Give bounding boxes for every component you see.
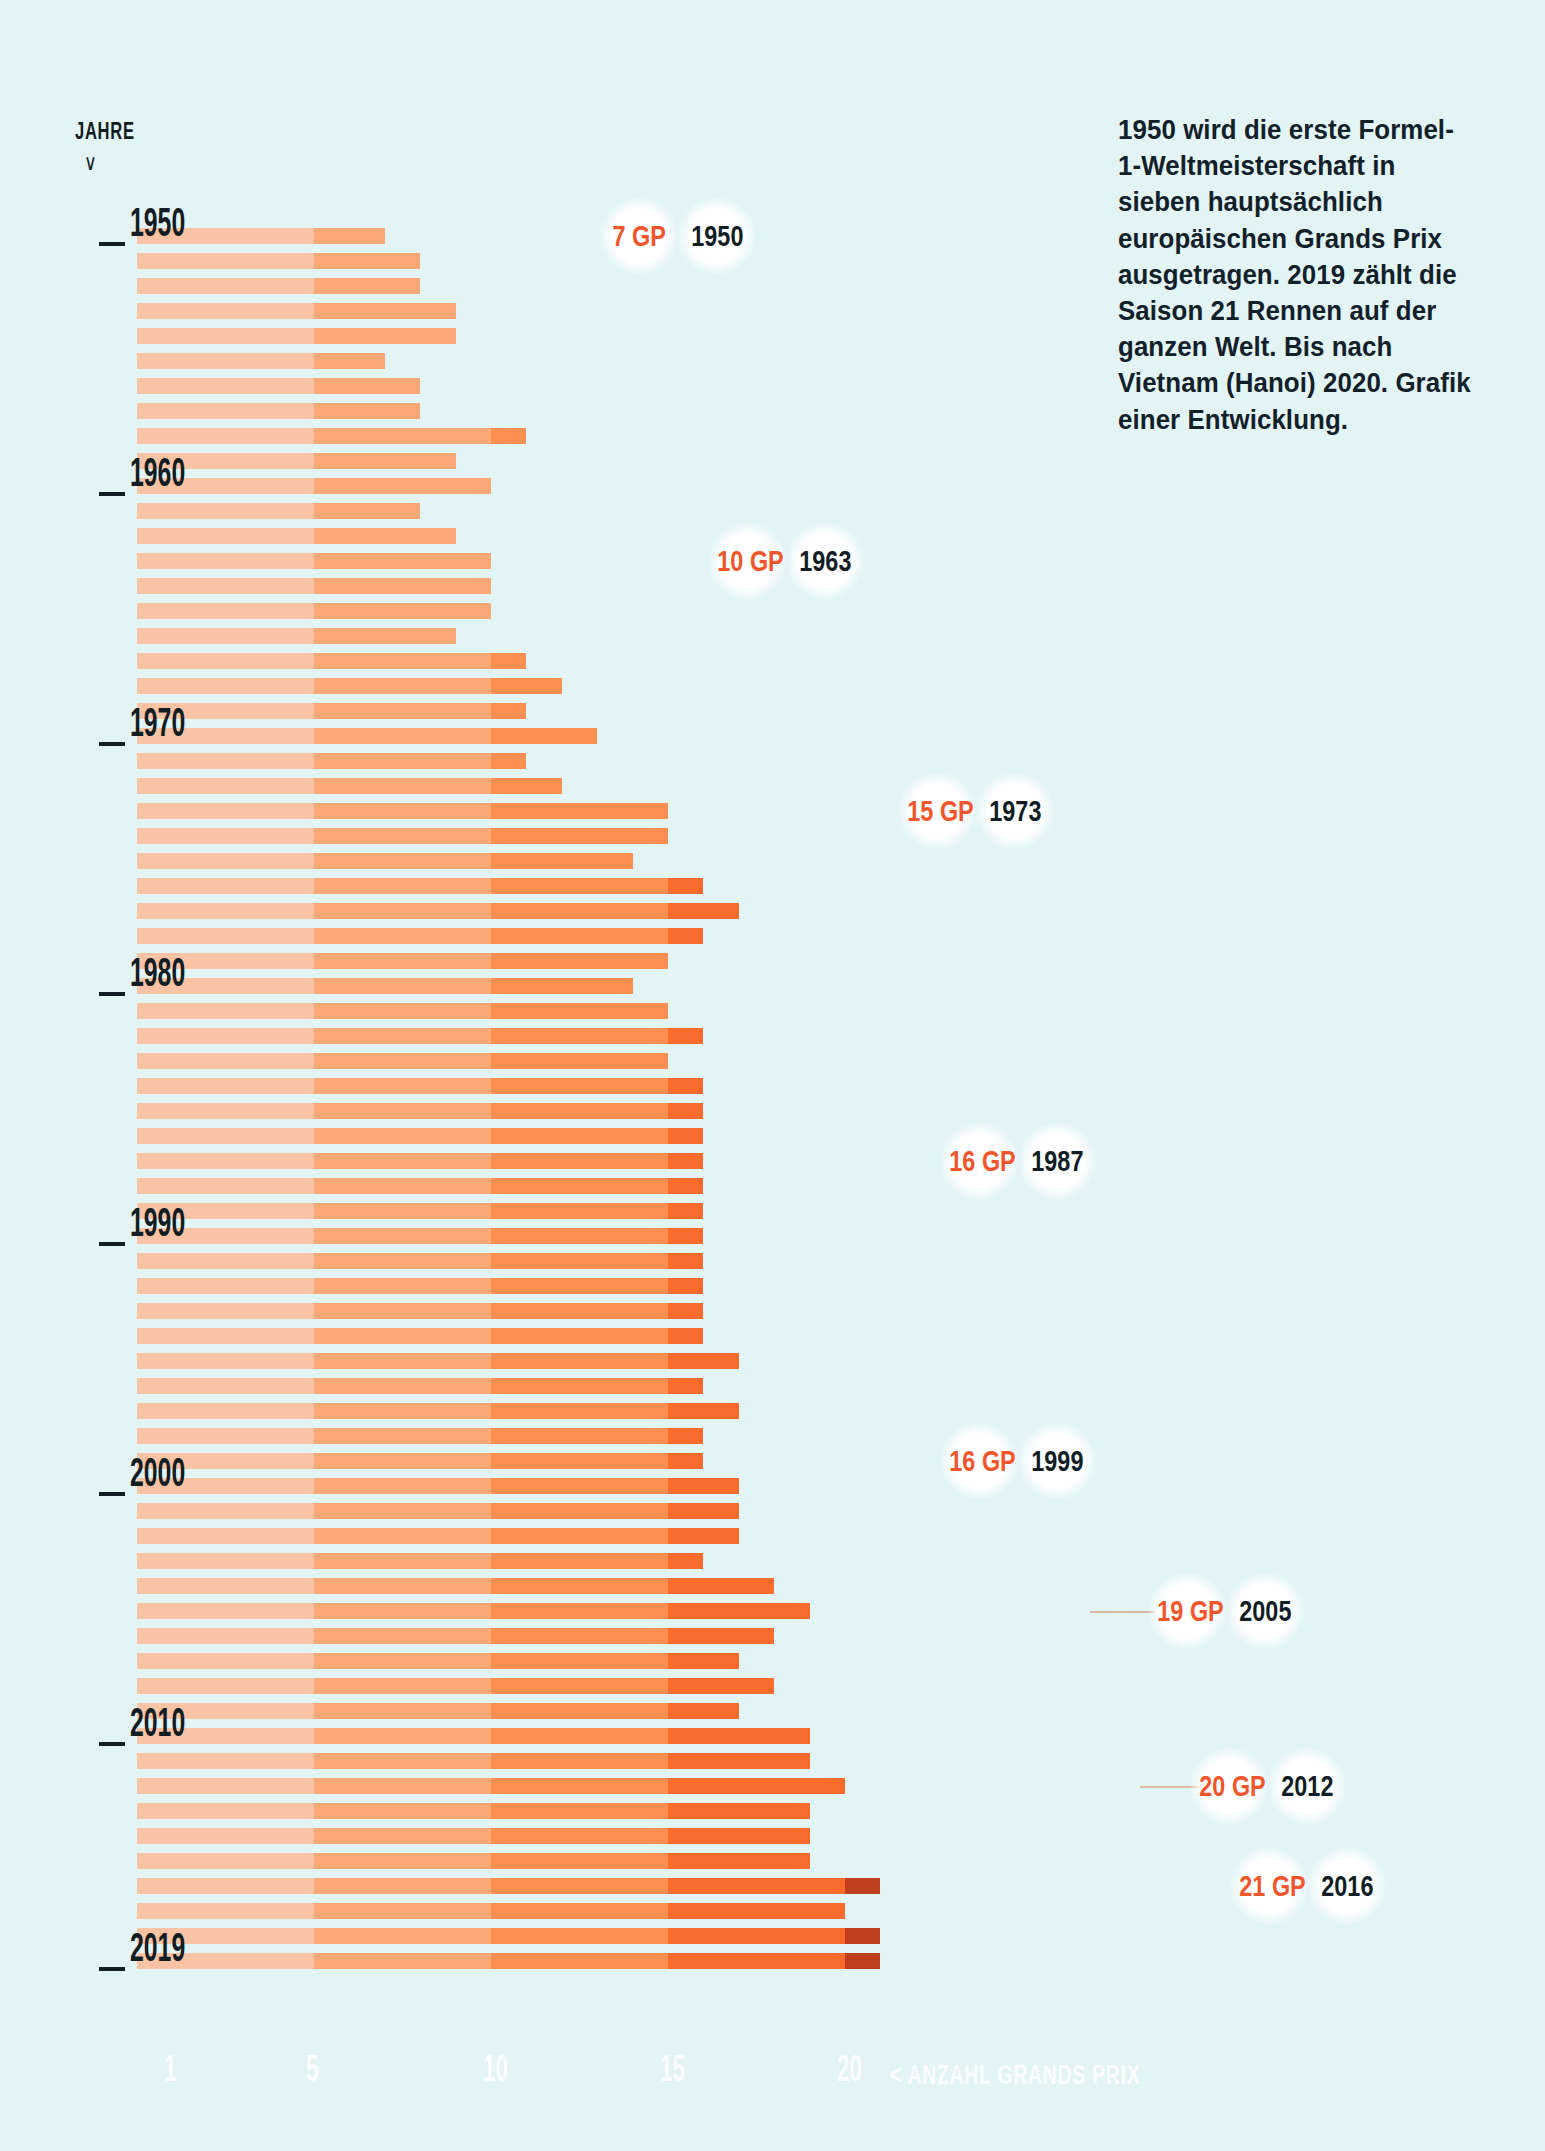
bar-segment xyxy=(668,1178,703,1194)
bar-1997 xyxy=(137,1403,739,1419)
bar-segment xyxy=(668,1678,774,1694)
bar-segment xyxy=(137,928,314,944)
bar-segment xyxy=(314,378,420,394)
bar-segment xyxy=(314,1303,491,1319)
bar-segment xyxy=(314,553,491,569)
bar-1971 xyxy=(137,753,526,769)
bar-segment xyxy=(314,1078,491,1094)
bar-1996 xyxy=(137,1378,703,1394)
bar-segment xyxy=(314,1128,491,1144)
bar-segment xyxy=(137,1078,314,1094)
bar-segment xyxy=(137,1428,314,1444)
bar-segment xyxy=(668,878,703,894)
bar-segment xyxy=(668,1603,810,1619)
bar-segment xyxy=(491,678,562,694)
bar-segment xyxy=(314,928,491,944)
bar-segment xyxy=(314,1278,491,1294)
bar-2015 xyxy=(137,1853,810,1869)
y-axis-tick xyxy=(99,242,125,246)
bar-2010 xyxy=(137,1728,810,1744)
bar-1960 xyxy=(137,478,491,494)
bar-segment xyxy=(137,653,314,669)
bar-segment xyxy=(668,1328,703,1344)
bar-segment xyxy=(314,328,456,344)
bar-2006 xyxy=(137,1628,774,1644)
bar-1951 xyxy=(137,253,420,269)
bar-segment xyxy=(491,1553,668,1569)
bar-segment xyxy=(314,403,420,419)
y-axis-tick xyxy=(99,1967,125,1971)
x-axis-tick-label-5: 5 xyxy=(306,2048,318,2090)
bar-segment xyxy=(314,1178,491,1194)
bar-1964 xyxy=(137,578,491,594)
bar-segment xyxy=(137,553,314,569)
bar-segment xyxy=(314,1453,491,1469)
bar-2011 xyxy=(137,1753,810,1769)
bar-segment xyxy=(668,928,703,944)
callout-leader-line xyxy=(1090,1611,1155,1613)
bar-segment xyxy=(668,1128,703,1144)
callout-year: 2016 xyxy=(1308,1847,1386,1925)
bar-segment xyxy=(314,628,456,644)
bar-segment xyxy=(491,753,526,769)
bar-1954 xyxy=(137,328,456,344)
bar-segment xyxy=(137,328,314,344)
bar-segment xyxy=(491,1728,668,1744)
bar-segment xyxy=(314,803,491,819)
bar-segment xyxy=(314,1728,491,1744)
bar-2008 xyxy=(137,1678,774,1694)
bar-segment xyxy=(668,1453,703,1469)
bar-segment xyxy=(491,1128,668,1144)
x-axis-title: < ANZAHL GRANDS PRIX xyxy=(890,2060,1140,2091)
bar-segment xyxy=(137,1003,314,1019)
bar-segment xyxy=(491,1953,668,1969)
bar-segment xyxy=(137,378,314,394)
bar-segment xyxy=(845,1878,880,1894)
bar-1962 xyxy=(137,528,456,544)
bar-segment xyxy=(137,1178,314,1194)
x-axis-tick-label-10: 10 xyxy=(483,2048,508,2090)
bar-segment xyxy=(491,1178,668,1194)
bar-segment xyxy=(137,1253,314,1269)
bar-segment xyxy=(137,503,314,519)
bar-segment xyxy=(137,528,314,544)
bar-segment xyxy=(314,1528,491,1544)
bar-segment xyxy=(491,1003,668,1019)
bar-segment xyxy=(314,1803,491,1819)
bar-segment xyxy=(668,1878,845,1894)
bar-1995 xyxy=(137,1353,739,1369)
bar-segment xyxy=(314,303,456,319)
bar-2000 xyxy=(137,1478,739,1494)
bar-segment xyxy=(314,828,491,844)
bar-segment xyxy=(137,303,314,319)
bar-segment xyxy=(137,1378,314,1394)
bar-segment xyxy=(668,1228,703,1244)
bar-1972 xyxy=(137,778,562,794)
bar-segment xyxy=(314,1003,491,1019)
bar-2002 xyxy=(137,1528,739,1544)
bar-segment xyxy=(491,1653,668,1669)
bar-1979 xyxy=(137,953,668,969)
bar-segment xyxy=(491,1853,668,1869)
bar-segment xyxy=(314,1828,491,1844)
bar-1952 xyxy=(137,278,420,294)
bar-segment xyxy=(491,1428,668,1444)
bar-segment xyxy=(137,1553,314,1569)
bar-segment xyxy=(314,1328,491,1344)
bar-segment xyxy=(491,1478,668,1494)
bar-1955 xyxy=(137,353,385,369)
callout-year: 1973 xyxy=(976,772,1054,850)
bar-segment xyxy=(137,1353,314,1369)
bar-segment xyxy=(314,603,491,619)
chart-plot-area: 1950196019701980199020002010201915101520… xyxy=(0,0,1545,2151)
bar-segment xyxy=(137,428,314,444)
bar-segment xyxy=(137,1678,314,1694)
callout-year: 1987 xyxy=(1018,1122,1096,1200)
callout-year: 1963 xyxy=(786,522,864,600)
bar-2017 xyxy=(137,1903,845,1919)
bar-1993 xyxy=(137,1303,703,1319)
bar-1988 xyxy=(137,1178,703,1194)
bar-segment xyxy=(314,978,491,994)
bar-segment xyxy=(491,1403,668,1419)
bar-1958 xyxy=(137,428,526,444)
